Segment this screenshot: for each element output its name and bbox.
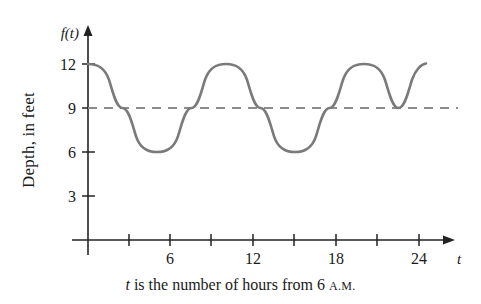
figure-caption: t is the number of hours from 6 A.M.	[0, 276, 481, 294]
y-axis-title: Depth, in feet	[19, 60, 39, 220]
caption-body: is the number of hours from 6	[130, 276, 329, 293]
x-tick-label-18: 18	[328, 250, 344, 267]
y-tick-label-6: 6	[68, 144, 76, 161]
y-axis	[84, 25, 93, 255]
x-tick-label-12: 12	[245, 250, 261, 267]
y-tick-label-3: 3	[68, 188, 76, 205]
x-tick-label-24: 24	[411, 250, 427, 267]
caption-meridiem: A.M.	[329, 279, 356, 293]
tide-depth-figure: 12 9 6 3 6 12 18 24 f(t) t Depth, in fee…	[0, 0, 481, 304]
x-axis-variable-symbol: t	[457, 251, 462, 267]
y-tick-label-9: 9	[68, 100, 76, 117]
depth-vs-time-chart: 12 9 6 3 6 12 18 24 f(t) t	[0, 0, 481, 304]
x-tick-label-6: 6	[166, 250, 174, 267]
y-axis-function-symbol: f(t)	[61, 25, 79, 42]
y-tick-label-12: 12	[60, 56, 76, 73]
